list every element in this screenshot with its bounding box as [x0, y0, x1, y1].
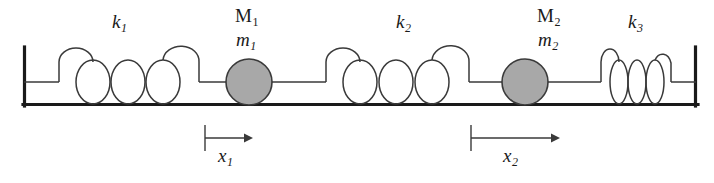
spring-k1: [59, 46, 199, 104]
spring-k1-coil-3: [146, 60, 180, 104]
support-frame: [23, 47, 698, 106]
spring-k3-leadout: [655, 54, 671, 82]
mass-label-M1-subscript: 1: [252, 15, 258, 29]
spring-k2-coil-1: [343, 60, 377, 104]
spring-k3-coil-1: [610, 60, 628, 104]
mass-label-M2-subscript: 2: [554, 15, 560, 29]
spring-label-k1: k1: [112, 12, 126, 31]
spring-k3: [601, 49, 671, 104]
mass-label-m2-symbol: m: [538, 29, 552, 50]
mass-label-m2-subscript: 2: [552, 39, 558, 53]
spring-label-k3-symbol: k: [628, 11, 636, 32]
spring-k2: [326, 46, 469, 104]
spring-k2-coil-2: [379, 60, 413, 104]
spring-k1-leadout: [163, 46, 199, 82]
displacement-label-x1-subscript: 1: [227, 155, 233, 169]
mass-label-m2: m2: [538, 30, 558, 49]
spring-label-k2-symbol: k: [396, 11, 404, 32]
spring-k2-coil-3: [415, 60, 449, 104]
x1-arrow-head: [244, 134, 253, 143]
diagram-canvas: [0, 0, 714, 183]
spring-label-k2: k2: [396, 12, 410, 31]
mass-label-m1-symbol: m: [236, 29, 250, 50]
mass-label-M2-symbol: M: [537, 5, 554, 26]
mass-label-M1-symbol: M: [235, 5, 252, 26]
spring-k3-coil-3: [646, 60, 664, 104]
spring-label-k2-subscript: 2: [405, 21, 411, 35]
mass-body-m2: [502, 59, 548, 105]
displacement-label-x2-subscript: 2: [512, 155, 518, 169]
mass-spring-diagram: k1 k2 k3 M1 m1 M2 m2 x1 x2: [0, 0, 714, 183]
displacement-label-x1: x1: [218, 146, 232, 165]
mass-label-M2: M2: [537, 6, 560, 25]
mass-label-M1: M1: [235, 6, 258, 25]
mass-body-m1: [226, 59, 272, 105]
displacement-label-x2: x2: [503, 146, 517, 165]
displacement-label-x2-symbol: x: [503, 145, 511, 166]
spring-label-k3: k3: [628, 12, 642, 31]
spring-k2-leadout: [432, 46, 469, 82]
spring-k1-coil-2: [111, 60, 145, 104]
mass-label-m1-subscript: 1: [250, 39, 256, 53]
spring-k1-coil-1: [76, 60, 110, 104]
spring-k3-coil-2: [628, 60, 646, 104]
spring-label-k3-subscript: 3: [637, 21, 643, 35]
spring-label-k1-subscript: 1: [121, 21, 127, 35]
x2-arrow-head: [551, 134, 560, 143]
displacement-label-x1-symbol: x: [218, 145, 226, 166]
mass-label-m1: m1: [236, 30, 256, 49]
spring-label-k1-symbol: k: [112, 11, 120, 32]
